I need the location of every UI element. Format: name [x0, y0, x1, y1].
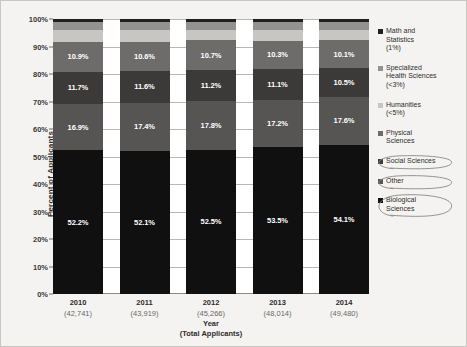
bar-segment[interactable]	[186, 22, 236, 30]
bar-segment[interactable]: 17.4%	[120, 103, 170, 151]
bar-column[interactable]: 10.6%11.6%17.4%52.1%	[120, 19, 170, 294]
bar-segment[interactable]: 11.6%	[120, 71, 170, 103]
bar-segment-label: 11.6%	[134, 82, 154, 91]
bar-segment[interactable]	[53, 30, 103, 42]
legend-label: Physical Sciences	[386, 129, 414, 146]
bar-segment[interactable]: 52.1%	[120, 151, 170, 294]
x-axis-category: 2012(45,266)	[186, 297, 236, 319]
legend-item[interactable]: Specialized Health Sciences (<3%)	[378, 64, 466, 99]
bar-column[interactable]: 10.7%11.2%17.8%52.5%	[186, 19, 236, 294]
y-axis-tick-label: 30%	[33, 207, 48, 216]
y-axis-tick-label: 50%	[33, 152, 48, 161]
legend-item[interactable]: Other	[378, 177, 466, 195]
x-axis-year-label: 2010	[53, 297, 103, 308]
legend-label: Social Sciences	[386, 157, 435, 166]
bar-column[interactable]: 10.1%10.5%17.6%54.1%	[319, 19, 369, 294]
bar-segment[interactable]	[120, 22, 170, 30]
bar-segment[interactable]: 10.5%	[319, 68, 369, 97]
bar-segment[interactable]: 10.1%	[319, 40, 369, 68]
bar-segment[interactable]: 10.7%	[186, 40, 236, 69]
bar-column[interactable]: 10.9%11.7%16.9%52.2%	[53, 19, 103, 294]
bar-segment-label: 17.8%	[201, 121, 222, 130]
bar-segment-label: 17.4%	[134, 122, 155, 131]
bar-segment-label: 10.3%	[267, 50, 288, 59]
bar-segment[interactable]	[319, 30, 369, 40]
y-axis-tick-label: 20%	[33, 235, 48, 244]
y-axis-tick-label: 10%	[33, 262, 48, 271]
x-axis-total-label: (48,014)	[253, 308, 303, 319]
chart-frame: Percent of Applicants 100%90%80%70%60%50…	[0, 0, 467, 347]
x-axis-total-label: (43,919)	[120, 308, 170, 319]
bar-segment-label: 10.6%	[134, 52, 155, 61]
legend-item[interactable]: Biological Sciences	[378, 196, 466, 222]
bar-segment-label: 10.7%	[201, 51, 222, 60]
legend-swatch	[378, 131, 383, 136]
legend-label: Math and Statistics (1%)	[386, 27, 415, 53]
bar-segment[interactable]: 17.6%	[319, 97, 369, 145]
legend-swatch	[378, 66, 383, 71]
y-axis-tick-label: 90%	[33, 42, 48, 51]
legend-item[interactable]: Physical Sciences	[378, 129, 466, 155]
legend-label: Other	[386, 177, 404, 186]
bar-segment[interactable]	[253, 30, 303, 41]
x-axis-total-label: (45,266)	[186, 308, 236, 319]
bar-segment[interactable]: 53.5%	[253, 147, 303, 294]
legend-swatch	[378, 29, 383, 34]
bar-segment-label: 10.1%	[334, 50, 355, 59]
bar-segment-label: 16.9%	[68, 123, 89, 132]
bar-segment[interactable]	[53, 22, 103, 30]
y-axis-tick-label: 100%	[29, 15, 48, 24]
bar-segment[interactable]	[186, 30, 236, 41]
bar-segment[interactable]	[319, 22, 369, 30]
legend: Math and Statistics (1%)Specialized Heal…	[378, 27, 466, 224]
bar-segment[interactable]: 11.7%	[53, 72, 103, 104]
bar-segment[interactable]: 52.2%	[53, 150, 103, 294]
x-axis-year-label: 2012	[186, 297, 236, 308]
bar-segment-label: 11.1%	[267, 80, 287, 89]
y-axis-tick-label: 70%	[33, 97, 48, 106]
bar-segment[interactable]: 17.8%	[186, 101, 236, 150]
legend-item[interactable]: Humanities (<5%)	[378, 101, 466, 127]
bar-segment[interactable]: 10.6%	[120, 42, 170, 71]
y-axis-tick-label: 80%	[33, 70, 48, 79]
x-axis-year-label: 2014	[319, 297, 369, 308]
bar-segment-label: 11.7%	[68, 83, 88, 92]
bar-segment-label: 52.1%	[134, 218, 155, 227]
bar-segment[interactable]: 10.9%	[53, 42, 103, 72]
bar-segment-label: 53.5%	[267, 216, 288, 225]
bar-segment[interactable]: 17.2%	[253, 100, 303, 147]
legend-swatch	[378, 159, 383, 164]
x-axis-title-line: (Total Applicants)	[53, 329, 369, 339]
y-axis-tick-label: 60%	[33, 125, 48, 134]
bar-segment[interactable]: 11.1%	[253, 69, 303, 100]
bar-segment-label: 10.5%	[334, 78, 355, 87]
x-axis-category: 2011(43,919)	[120, 297, 170, 319]
bar-segment-label: 54.1%	[334, 215, 355, 224]
legend-item[interactable]: Social Sciences	[378, 157, 466, 175]
x-axis-title: Year(Total Applicants)	[53, 319, 369, 339]
plot-area: 100%90%80%70%60%50%40%30%20%10%0% 10.9%1…	[53, 19, 369, 294]
bar-column[interactable]: 10.3%11.1%17.2%53.5%	[253, 19, 303, 294]
legend-item[interactable]: Math and Statistics (1%)	[378, 27, 466, 62]
bar-segment[interactable]: 16.9%	[53, 104, 103, 150]
y-axis-tick-label: 40%	[33, 180, 48, 189]
y-axis-tick-label: 0%	[37, 290, 48, 299]
bar-segment-label: 52.5%	[201, 217, 222, 226]
x-axis-year-label: 2011	[120, 297, 170, 308]
bar-segment[interactable]: 54.1%	[319, 145, 369, 294]
legend-swatch	[378, 179, 383, 184]
x-axis-category: 2013(48,014)	[253, 297, 303, 319]
bar-segment[interactable]	[253, 22, 303, 30]
bar-segment-label: 17.2%	[267, 119, 288, 128]
bar-segment[interactable]: 10.3%	[253, 41, 303, 69]
bar-segment-label: 10.9%	[68, 52, 89, 61]
legend-swatch	[378, 198, 383, 203]
legend-label: Humanities (<5%)	[386, 101, 421, 118]
legend-label: Specialized Health Sciences (<3%)	[386, 64, 437, 90]
bar-segment[interactable]: 52.5%	[186, 150, 236, 294]
bar-segment[interactable]: 11.2%	[186, 70, 236, 101]
x-axis-title-line: Year	[53, 319, 369, 329]
x-axis-labels: 2010(42,741)2011(43,919)2012(45,266)2013…	[53, 297, 369, 319]
bar-segment[interactable]	[120, 30, 170, 42]
x-axis-year-label: 2013	[253, 297, 303, 308]
